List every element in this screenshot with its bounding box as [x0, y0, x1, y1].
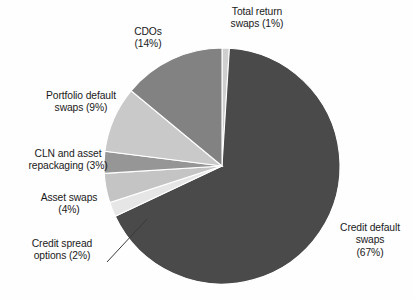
pie-chart-figure: Total return swaps (1%) CDOs (14%) Portf… [0, 0, 414, 299]
pie-label-asset-swaps: Asset swaps (4%) [20, 192, 118, 217]
pie-slice-group [104, 48, 340, 284]
pie-label-total-return-swaps: Total return swaps (1%) [205, 6, 309, 31]
pie-label-credit-default-swaps: Credit default swaps (67%) [328, 222, 412, 259]
pie-label-portfolio-default-swaps: Portfolio default swaps (9%) [24, 90, 138, 115]
pie-label-cdos: CDOs (14%) [112, 26, 184, 51]
pie-label-credit-spread-options: Credit spread options (2%) [6, 238, 118, 263]
pie-label-cln-and-asset-repackaging: CLN and asset repackaging (3%) [8, 148, 128, 173]
